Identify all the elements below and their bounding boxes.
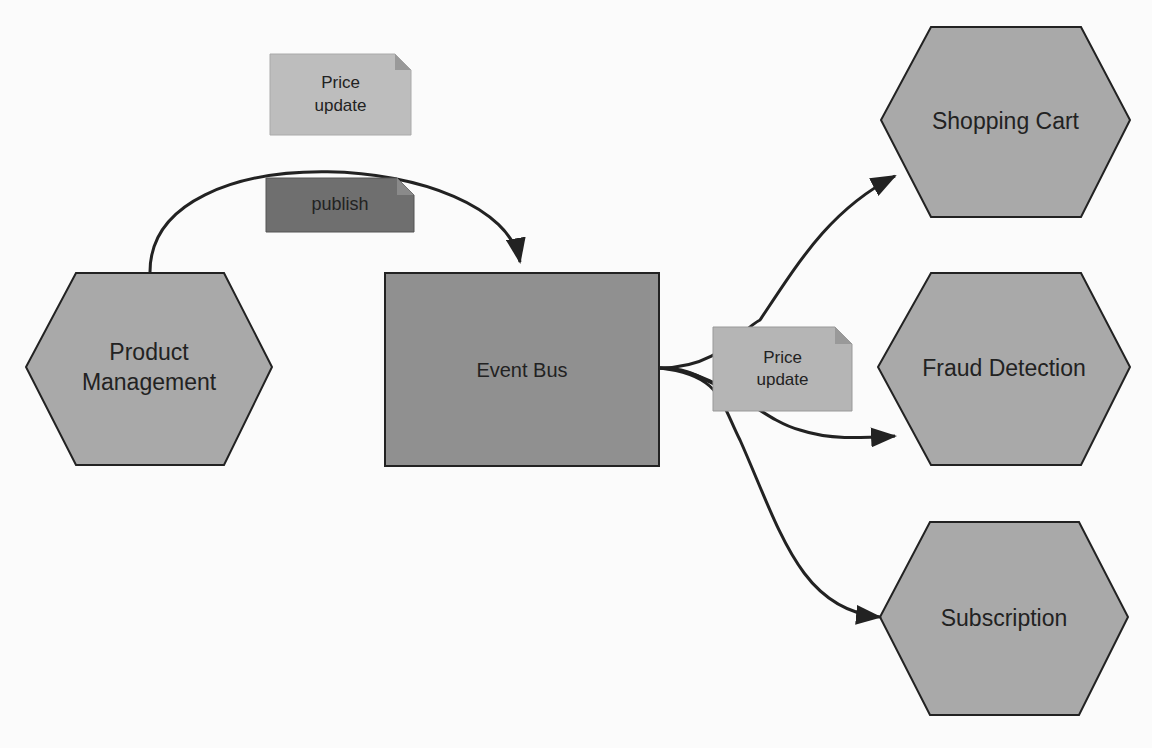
publish-label: publish	[266, 178, 414, 232]
label-line-2: Management	[82, 368, 216, 398]
subscription-label: Subscription	[880, 522, 1128, 715]
price-update-right-label: Price update	[713, 327, 852, 411]
note-line-2: update	[315, 95, 367, 117]
event-bus-label: Event Bus	[385, 273, 659, 466]
note-line-2: update	[757, 369, 809, 391]
shopping-cart-label: Shopping Cart	[881, 27, 1130, 217]
note-line-1: Price	[321, 72, 360, 94]
label-line-1: Product	[109, 338, 188, 368]
fraud-detection-label: Fraud Detection	[878, 273, 1130, 465]
price-update-top-label: Price update	[270, 54, 411, 135]
product-management-label: Product Management	[26, 320, 272, 416]
note-line-1: Price	[763, 347, 802, 369]
